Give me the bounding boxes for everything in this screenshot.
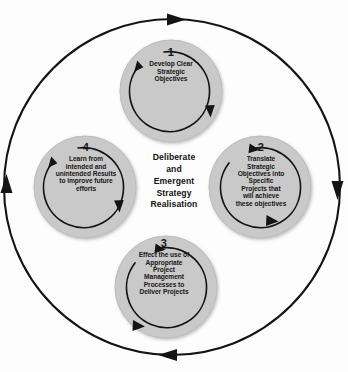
node-2-circle[interactable] [209, 136, 311, 238]
strategy-cycle-diagram: 1 Develop Clear Strategic Objectives 2 T… [0, 0, 348, 372]
outer-ring-arrowhead-bottom-icon [158, 349, 177, 361]
node-1-circle[interactable] [120, 40, 222, 142]
node-4-circle[interactable] [34, 136, 136, 238]
outer-ring-arrowhead-left-icon [1, 174, 13, 193]
node-3-circle[interactable] [115, 236, 217, 338]
node-4-group[interactable] [34, 136, 136, 238]
diagram-canvas [0, 0, 348, 372]
node-2-group[interactable] [209, 136, 311, 238]
outer-ring-arrowhead-right-icon [332, 181, 344, 200]
outer-ring-arrowhead-top-icon [167, 14, 186, 26]
node-3-group[interactable] [115, 236, 217, 338]
node-1-group[interactable] [120, 40, 222, 142]
